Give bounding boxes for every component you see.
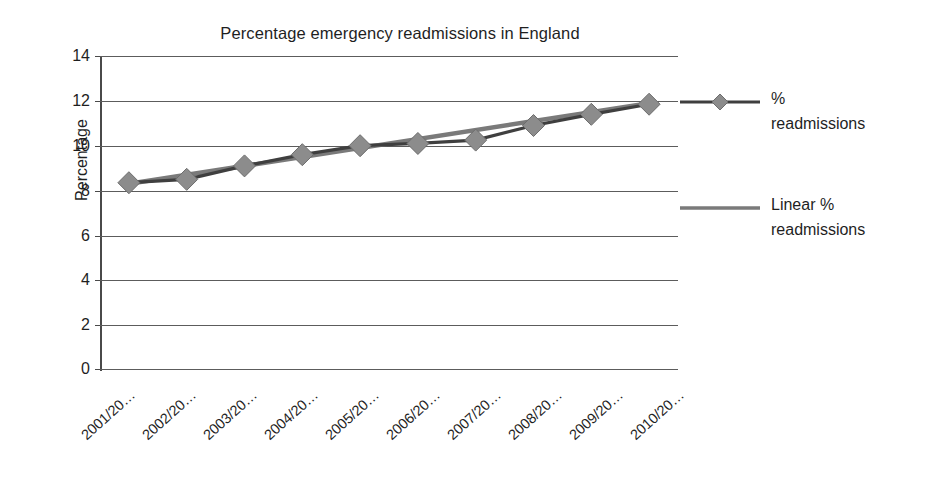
x-tick-label-2002: 2002/20… <box>139 387 199 443</box>
legend-label-line-1: % <box>771 86 921 111</box>
x-tick-label-2009: 2009/20… <box>566 387 626 443</box>
gridline-14 <box>100 56 678 57</box>
x-tick-label-2004: 2004/20… <box>261 387 321 443</box>
y-tick-mark <box>95 369 100 370</box>
gridline-10 <box>100 146 678 147</box>
y-tick-label-0: 0 <box>44 361 90 377</box>
x-tick-label-2005: 2005/20… <box>322 387 382 443</box>
gridline-2 <box>100 325 678 326</box>
gridline-4 <box>100 280 678 281</box>
x-tick-label-2007: 2007/20… <box>444 387 504 443</box>
y-tick-mark <box>95 325 100 326</box>
plot-area <box>100 56 678 370</box>
legend-label-linear-readmissions: Linear % readmissions <box>771 192 921 242</box>
y-tick-label-4: 4 <box>44 272 90 288</box>
y-tick-mark <box>95 146 100 147</box>
y-tick-label-10: 10 <box>44 138 90 154</box>
y-tick-mark <box>95 56 100 57</box>
y-axis-title: Percentage <box>73 95 93 225</box>
gridline-0 <box>100 369 678 370</box>
legend-label-line-1: Linear % <box>771 192 921 217</box>
chart-title: Percentage emergency readmissions in Eng… <box>120 24 680 43</box>
chart-figure: Percentage emergency readmissions in Eng… <box>0 0 927 490</box>
legend-swatch-line-with-diamond-marker <box>678 91 762 113</box>
y-tick-label-6: 6 <box>44 228 90 244</box>
y-tick-mark <box>95 101 100 102</box>
y-tick-mark <box>95 280 100 281</box>
y-tick-mark <box>95 236 100 237</box>
x-tick-label-2006: 2006/20… <box>383 387 443 443</box>
gridline-12 <box>100 101 678 102</box>
x-tick-label-2010: 2010/20… <box>627 387 687 443</box>
legend-label-line-2: readmissions <box>771 217 921 242</box>
y-tick-mark <box>95 191 100 192</box>
legend-swatch-plain-line <box>678 197 762 219</box>
gridline-8 <box>100 191 678 192</box>
x-tick-label-2008: 2008/20… <box>505 387 565 443</box>
y-tick-label-2: 2 <box>44 317 90 333</box>
y-tick-label-14: 14 <box>44 48 90 64</box>
gridline-6 <box>100 236 678 237</box>
y-tick-label-12: 12 <box>44 93 90 109</box>
y-tick-label-8: 8 <box>44 183 90 199</box>
legend-label-readmissions: % readmissions <box>771 86 921 136</box>
x-tick-label-2001: 2001/20… <box>78 387 138 443</box>
legend-label-line-2: readmissions <box>771 111 921 136</box>
x-tick-label-2003: 2003/20… <box>200 387 260 443</box>
